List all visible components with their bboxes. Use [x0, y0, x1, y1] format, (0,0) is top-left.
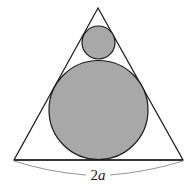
- dimension-arc-left: [14, 161, 86, 175]
- diagram: 2a: [0, 0, 191, 191]
- small-circle: [82, 26, 115, 59]
- dimension-arc-right: [110, 161, 183, 175]
- large-circle: [49, 61, 148, 160]
- base-length-label: 2a: [91, 167, 106, 183]
